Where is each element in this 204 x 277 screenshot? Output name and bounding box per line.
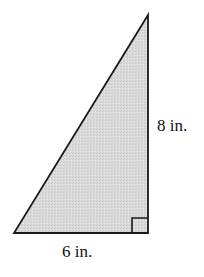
height-label: 8 in. [157, 117, 187, 134]
triangle-diagram: 8 in. 6 in. [0, 0, 204, 277]
base-label: 6 in. [62, 243, 92, 260]
triangle-svg [0, 0, 204, 277]
right-triangle-shape [14, 15, 148, 233]
